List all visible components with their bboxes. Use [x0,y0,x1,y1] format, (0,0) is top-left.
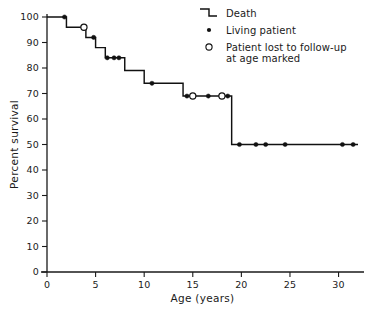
living-patient-marker [254,142,258,146]
legend-label-lost-line2: at age marked [226,53,300,64]
y-tick-label: 30 [27,190,40,201]
x-tick-label: 15 [187,279,200,290]
y-tick-label: 70 [27,88,40,99]
x-axis-title: Age (years) [170,292,234,304]
y-tick-label: 90 [27,37,40,48]
living-patient-marker [92,35,96,39]
x-tick-label: 25 [284,279,297,290]
living-patient-marker [283,142,287,146]
y-tick-label: 100 [20,11,39,22]
living-patient-marker [150,81,154,85]
y-tick-label: 0 [33,266,39,277]
living-patient-marker [264,142,268,146]
living-patient-marker [117,56,121,60]
survival-chart: 0102030405060708090100051015202530Age (y… [0,0,370,312]
living-patient-marker [206,94,210,98]
y-tick-label: 20 [27,215,40,226]
living-patient-marker [105,56,109,60]
living-patient-marker [112,56,116,60]
y-tick-label: 60 [27,113,40,124]
legend-label-living: Living patient [226,25,296,36]
y-axis-title: Percent survival [8,100,20,189]
living-patient-marker [226,94,230,98]
legend-open-circle-icon [206,44,212,50]
living-patient-marker [351,142,355,146]
lost-to-followup-marker [190,93,196,99]
living-patient-marker [185,94,189,98]
lost-to-followup-marker [219,93,225,99]
lost-to-followup-marker [81,24,87,30]
y-tick-label: 10 [27,241,40,252]
x-tick-label: 10 [138,279,151,290]
y-tick-label: 40 [27,164,40,175]
legend-step-icon [200,9,217,16]
x-tick-label: 30 [332,279,345,290]
legend-label-death: Death [226,8,257,19]
living-patient-marker [340,142,344,146]
chart-canvas: 0102030405060708090100051015202530Age (y… [0,0,370,312]
living-patient-marker [62,15,66,19]
y-tick-label: 50 [27,139,40,150]
y-tick-label: 80 [27,62,40,73]
legend-filled-dot-icon [207,28,211,32]
x-tick-label: 5 [92,279,98,290]
legend-label-lost: Patient lost to follow-up [226,42,347,53]
living-patient-marker [237,142,241,146]
x-tick-label: 0 [44,279,50,290]
x-tick-label: 20 [235,279,248,290]
